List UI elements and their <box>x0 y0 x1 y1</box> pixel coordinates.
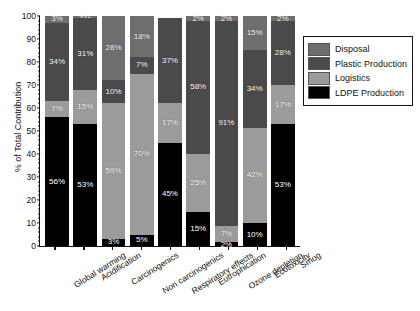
bar-segment-label: 15% <box>77 103 93 111</box>
bar-segment-label: 10% <box>247 231 263 239</box>
legend-label: LDPE Production <box>335 88 404 98</box>
bar-segment[interactable]: 45% <box>158 143 182 247</box>
bar-segment-label: 34% <box>49 58 65 66</box>
bar-segment[interactable]: 10% <box>243 223 267 246</box>
bar-segment[interactable]: 91% <box>215 21 239 226</box>
bar-segment-label: 18% <box>134 33 150 41</box>
bar-column[interactable]: 2%28%17%53% <box>271 16 295 246</box>
bar-column[interactable]: 15%34%42%10% <box>243 16 267 246</box>
y-tick-label: 20 <box>27 195 40 205</box>
bar-segment-label: 56% <box>49 178 65 186</box>
bar-segment[interactable]: 7% <box>130 57 154 73</box>
legend-label: Plastic Production <box>335 59 407 69</box>
bar-segment[interactable]: 56% <box>45 117 69 246</box>
bar-segment-label: 25% <box>190 179 206 187</box>
bar-segment[interactable]: 28% <box>102 16 126 80</box>
bar-segment-label: 3% <box>108 238 120 246</box>
bar-segment-label: 7% <box>136 61 148 69</box>
y-tick-label: 40 <box>27 149 40 159</box>
bar-segment-label: 10% <box>106 88 122 96</box>
bar-segment-label: 3% <box>51 15 63 23</box>
y-tick-label: 70 <box>27 80 40 90</box>
bar-column[interactable]: 2%91%7%2% <box>215 16 239 246</box>
bar-column[interactable]: 3%34%7%56% <box>45 16 69 246</box>
legend-item[interactable]: Plastic Production <box>308 57 407 70</box>
y-tick-label: 100 <box>22 11 40 21</box>
bar-segment[interactable]: 18% <box>130 16 154 57</box>
bar-segment-label: 15% <box>190 225 206 233</box>
bar-segment[interactable]: 31% <box>73 18 97 89</box>
bar-segment-label: 2% <box>221 241 233 249</box>
bar-group: 3%34%7%56%1%31%15%53%28%10%59%3%18%7%70%… <box>40 16 300 246</box>
bar-segment[interactable]: 5% <box>130 235 154 247</box>
bar-segment-label: 7% <box>51 105 63 113</box>
y-tick-label: 60 <box>27 103 40 113</box>
bar-segment-label: 28% <box>275 49 291 57</box>
bar-segment-label: 45% <box>162 190 178 198</box>
bar-column[interactable]: 2%58%25%15% <box>186 16 210 246</box>
bar-segment[interactable]: 34% <box>243 50 267 127</box>
bar-segment-label: 42% <box>247 171 263 179</box>
bar-segment[interactable]: 59% <box>102 103 126 239</box>
bar-segment[interactable]: 15% <box>186 212 210 247</box>
bar-segment[interactable]: 15% <box>243 16 267 50</box>
chart-legend: DisposalPlastic ProductionLogisticsLDPE … <box>303 36 413 106</box>
y-tick-label: 90 <box>27 34 40 44</box>
bar-column[interactable]: 28%10%59%3% <box>102 16 126 246</box>
bar-segment[interactable]: 53% <box>73 124 97 246</box>
bar-segment-label: 34% <box>247 85 263 93</box>
bar-segment[interactable]: 53% <box>271 124 295 246</box>
bar-segment-label: 7% <box>221 230 233 238</box>
bar-segment[interactable]: 15% <box>73 90 97 125</box>
bar-segment[interactable]: 34% <box>45 23 69 101</box>
bar-segment[interactable]: 7% <box>45 101 69 117</box>
bar-segment-label: 5% <box>136 236 148 244</box>
bar-segment-label: 53% <box>77 181 93 189</box>
bar-segment-label: 59% <box>106 167 122 175</box>
bar-segment-label: 17% <box>162 119 178 127</box>
bar-segment[interactable]: 58% <box>186 21 210 154</box>
bar-segment[interactable]: 70% <box>130 74 154 235</box>
legend-item[interactable]: Disposal <box>308 43 407 56</box>
legend-color-swatch <box>308 43 330 56</box>
bar-segment[interactable]: 42% <box>243 128 267 224</box>
bar-segment-label: 91% <box>218 119 234 127</box>
bar-segment-label: 70% <box>134 150 150 158</box>
bar-column[interactable]: 18%7%70%5% <box>130 16 154 246</box>
bar-segment-label: 58% <box>190 83 206 91</box>
legend-color-swatch <box>308 57 330 70</box>
y-axis-title: % of Total Contribution <box>13 57 23 197</box>
legend-item[interactable]: Logistics <box>308 72 407 85</box>
bar-segment[interactable]: 17% <box>271 85 295 124</box>
stacked-bar-chart: % of Total Contribution 0102030405060708… <box>0 0 420 311</box>
bar-segment[interactable]: 2% <box>215 242 239 247</box>
bar-segment[interactable]: 3% <box>102 239 126 246</box>
bar-segment[interactable]: 3% <box>45 16 69 23</box>
bar-segment-label: 31% <box>77 50 93 58</box>
bar-segment[interactable]: 25% <box>186 154 210 212</box>
plot-area: 0102030405060708090100 3%34%7%56%1%31%15… <box>39 16 300 247</box>
x-axis-labels: Global warmingAcidificationCarcinogenics… <box>39 250 301 310</box>
legend-color-swatch <box>308 72 330 85</box>
bar-segment-label: 17% <box>275 101 291 109</box>
bar-segment-label: 15% <box>247 29 263 37</box>
y-tick-label: 50 <box>27 126 40 136</box>
legend-item[interactable]: LDPE Production <box>308 86 407 99</box>
legend-label: Logistics <box>335 73 370 83</box>
bar-segment[interactable]: 17% <box>158 103 182 142</box>
bar-segment[interactable]: 28% <box>271 21 295 85</box>
bar-segment-label: 28% <box>106 44 122 52</box>
bar-column[interactable]: 0%37%17%45% <box>158 16 182 246</box>
bar-column[interactable]: 1%31%15%53% <box>73 16 97 246</box>
y-tick-label: 10 <box>27 218 40 228</box>
y-tick-label: 80 <box>27 57 40 67</box>
bar-segment-label: 53% <box>275 181 291 189</box>
legend-label: Disposal <box>335 44 370 54</box>
y-tick-label: 30 <box>27 172 40 182</box>
bar-segment[interactable]: 10% <box>102 80 126 103</box>
legend-color-swatch <box>308 86 330 99</box>
bar-segment[interactable]: 7% <box>215 226 239 242</box>
bar-segment[interactable]: 37% <box>158 18 182 103</box>
bar-segment-label: 37% <box>162 57 178 65</box>
